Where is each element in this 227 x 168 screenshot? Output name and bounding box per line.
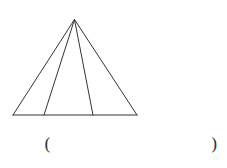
left-side-line <box>13 20 75 116</box>
open-parenthesis: ( <box>44 134 51 154</box>
answer-blank[interactable]: ( ) <box>0 134 227 156</box>
close-parenthesis: ) <box>211 134 218 154</box>
inner-line-1 <box>44 20 75 116</box>
